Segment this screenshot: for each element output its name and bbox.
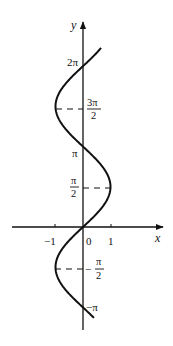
x-axis-label: x — [154, 231, 161, 245]
y-axis-label: y — [70, 18, 77, 32]
x-tick-label-neg-one: −1 — [44, 235, 56, 247]
y-label-half-pi-num: π — [71, 175, 77, 186]
y-label-two-pi: 2π — [67, 56, 79, 68]
x-tick-label-pos-one: 1 — [108, 235, 114, 247]
y-label-neg-half-pi-den: 2 — [96, 270, 101, 281]
y-label-neg-half-pi-num: π — [96, 256, 102, 267]
y-label-half-pi-den: 2 — [71, 188, 76, 199]
origin-label: 0 — [86, 235, 92, 247]
y-label-neg-pi: −π — [86, 301, 98, 313]
y-label-three-half-pi-den: 2 — [91, 110, 96, 121]
y-label-neg-half-pi-sign: − — [85, 263, 91, 275]
y-label-three-half-pi-num: 3π — [87, 97, 98, 108]
y-label-pi: π — [72, 147, 78, 159]
sine-curve-plot: y x −1 0 1 2π 3π 2 π π 2 − π 2 −π — [0, 0, 173, 346]
